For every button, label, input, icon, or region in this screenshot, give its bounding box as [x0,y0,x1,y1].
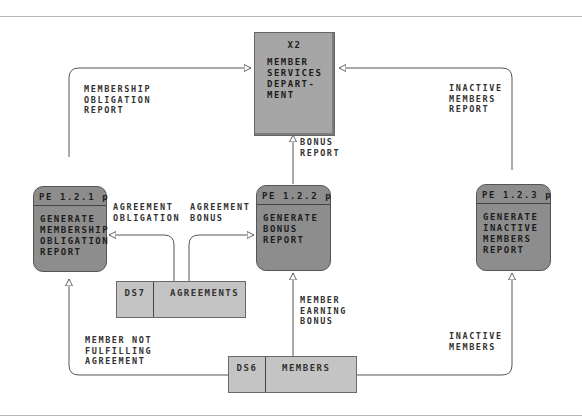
external-entity-member-services[interactable]: X2 MEMBER SERVICES DEPART- MENT [254,32,335,136]
process-id: PE 1.2.3 p [477,185,550,204]
flow-label-bonus-report: BONUS REPORT [300,137,340,158]
data-store-id: DS7 [117,282,154,317]
flow-agreement-bonus [189,235,254,281]
process-name: GENERATE MEMBERSHIP OBLIGATION REPORT [34,206,106,258]
flow-label-agreement-bonus: AGREEMENT BONUS [190,202,250,223]
flow-inactive-members [357,273,512,375]
process-id: PE 1.2.1 p [34,187,106,206]
process-1-2-2[interactable]: PE 1.2.2 p GENERATE BONUS REPORT [256,185,331,271]
process-name: GENERATE INACTIVE MEMBERS REPORT [477,204,550,256]
flow-label-inactive-members: INACTIVE MEMBERS [449,331,503,352]
flow-agreement-obligation [109,235,174,281]
data-store-id: DS6 [229,357,266,392]
external-entity-name: MEMBER SERVICES DEPART- MENT [255,50,334,101]
flow-label-member-earning-bonus: MEMBER EARNING BONUS [300,295,347,327]
flow-label-membership-obligation-report: MEMBERSHIP OBLIGATION REPORT [84,84,151,116]
data-store-name: AGREEMENTS [154,282,239,317]
process-id: PE 1.2.2 p [257,186,330,205]
process-1-2-3[interactable]: PE 1.2.3 p GENERATE INACTIVE MEMBERS REP… [476,184,551,271]
process-name: GENERATE BONUS REPORT [257,205,330,246]
flow-label-inactive-members-report: INACTIVE MEMBERS REPORT [449,83,503,115]
data-store-ds6[interactable]: DS6 MEMBERS [228,356,357,393]
process-1-2-1[interactable]: PE 1.2.1 p GENERATE MEMBERSHIP OBLIGATIO… [33,186,107,272]
flow-label-member-not-fulfilling: MEMBER NOT FULFILLING AGREEMENT [85,335,152,367]
flow-label-agreement-obligation: AGREEMENT OBLIGATION [113,202,180,223]
data-store-ds7[interactable]: DS7 AGREEMENTS [116,281,246,318]
data-store-name: MEMBERS [266,357,330,392]
external-entity-id: X2 [255,33,334,50]
